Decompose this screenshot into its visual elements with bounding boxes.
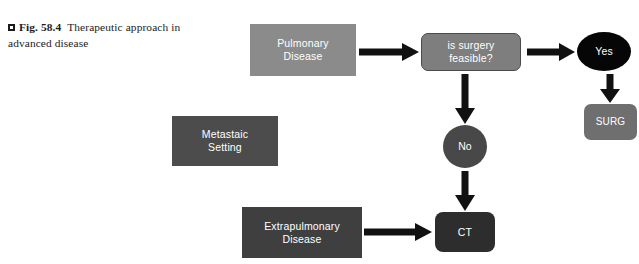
- node-is-surgery-feasible-label: is surgery feasible?: [447, 39, 494, 65]
- arrow-pulmonary-to-decision: [359, 43, 419, 61]
- caption-marker-icon: [8, 24, 15, 31]
- figure-number: Fig. 58.4: [19, 21, 61, 33]
- node-extrapulmonary-disease-label: Extrapulmonary Disease: [264, 220, 340, 246]
- node-is-surgery-feasible[interactable]: is surgery feasible?: [421, 33, 521, 71]
- node-pulmonary-disease-label: Pulmonary Disease: [277, 37, 329, 63]
- arrow-yes-to-surg: [600, 74, 620, 103]
- node-metastaic-setting[interactable]: Metastaic Setting: [172, 116, 278, 166]
- node-surg[interactable]: SURG: [584, 104, 637, 140]
- node-ct-label: CT: [458, 226, 472, 239]
- node-no-label: No: [458, 140, 472, 153]
- node-no[interactable]: No: [443, 125, 487, 168]
- figure-caption: Fig. 58.4 Therapeutic approach in advanc…: [8, 20, 218, 51]
- node-yes-label: Yes: [595, 45, 613, 58]
- node-extrapulmonary-disease[interactable]: Extrapulmonary Disease: [242, 207, 362, 258]
- node-yes[interactable]: Yes: [577, 32, 631, 71]
- node-ct[interactable]: CT: [435, 212, 495, 252]
- node-pulmonary-disease[interactable]: Pulmonary Disease: [250, 24, 356, 76]
- node-surg-label: SURG: [596, 116, 626, 128]
- node-metastaic-setting-label: Metastaic Setting: [202, 128, 248, 154]
- arrow-decision-to-yes: [527, 43, 575, 61]
- arrow-no-to-ct: [455, 171, 475, 211]
- arrow-extrapulmonary-to-ct: [364, 223, 432, 241]
- arrow-decision-to-no: [455, 74, 475, 124]
- figure-container: Fig. 58.4 Therapeutic approach in advanc…: [0, 0, 639, 264]
